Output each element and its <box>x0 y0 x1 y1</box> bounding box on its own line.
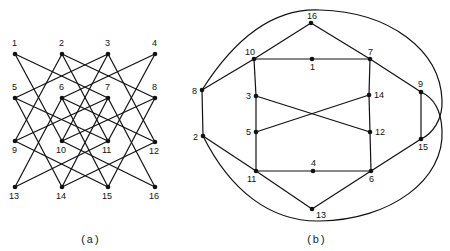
node-label-12: 12 <box>149 146 159 156</box>
node-label-10: 10 <box>56 145 66 155</box>
node-label-2: 2 <box>193 132 198 142</box>
node-label-2: 2 <box>59 38 64 48</box>
node-7 <box>106 96 111 101</box>
node-4 <box>153 52 158 57</box>
knight-graph-figure: 12345678910111213141516 1610178314951221… <box>0 0 450 251</box>
node-label-10: 10 <box>245 47 255 57</box>
edge-10-3 <box>254 59 256 96</box>
edge-10-8 <box>202 59 254 90</box>
node-16 <box>309 21 314 26</box>
node-8 <box>153 96 158 101</box>
node-3 <box>106 52 111 57</box>
node-label-16: 16 <box>307 11 317 21</box>
node-7 <box>368 57 373 62</box>
edge-12-6 <box>370 132 371 171</box>
node-label-4: 4 <box>152 38 157 48</box>
node-label-14: 14 <box>56 191 66 201</box>
edge-8-2 <box>202 90 203 136</box>
node-1 <box>310 57 315 62</box>
node-label-8: 8 <box>152 82 157 92</box>
node-4 <box>311 169 316 174</box>
node-9 <box>419 90 424 95</box>
node-label-6: 6 <box>369 174 374 184</box>
node-6 <box>60 96 65 101</box>
node-2 <box>60 52 65 57</box>
node-13 <box>13 185 18 190</box>
node-10 <box>60 139 65 144</box>
node-5 <box>13 96 18 101</box>
edge-6-15 <box>371 139 421 171</box>
edge-16-10 <box>254 23 311 59</box>
node-label-14: 14 <box>374 90 384 100</box>
node-10 <box>252 57 257 62</box>
caption-b: (b) <box>306 234 326 246</box>
node-12 <box>368 130 373 135</box>
node-label-11: 11 <box>247 174 256 184</box>
node-6 <box>369 169 374 174</box>
node-14 <box>60 185 65 190</box>
node-label-15: 15 <box>102 191 112 201</box>
edge-13-6 <box>312 171 371 209</box>
edge-7-14 <box>369 59 370 95</box>
node-label-3: 3 <box>246 91 251 101</box>
node-label-1: 1 <box>310 62 315 72</box>
node-14 <box>367 93 372 98</box>
edge-7-9 <box>370 59 421 92</box>
node-label-13: 13 <box>9 191 19 201</box>
node-3 <box>254 94 259 99</box>
node-label-6: 6 <box>59 82 64 92</box>
edge-2-11 <box>203 136 256 171</box>
node-label-16: 16 <box>149 191 159 201</box>
node-15 <box>419 137 424 142</box>
node-12 <box>153 140 158 145</box>
graph-panel-b: 16101783149512215114613 <box>192 10 442 221</box>
node-label-7: 7 <box>105 82 110 92</box>
caption-a: (a) <box>80 234 100 246</box>
node-16 <box>153 185 158 190</box>
node-label-5: 5 <box>246 127 251 137</box>
node-label-9: 9 <box>418 79 423 89</box>
node-label-5: 5 <box>12 82 17 92</box>
node-9 <box>13 139 18 144</box>
edge-11-13 <box>256 171 312 209</box>
node-label-12: 12 <box>375 127 385 137</box>
node-8 <box>200 88 205 93</box>
node-11 <box>106 139 111 144</box>
node-label-11: 11 <box>102 145 111 155</box>
node-label-7: 7 <box>368 47 373 57</box>
node-2 <box>201 134 206 139</box>
node-15 <box>106 185 111 190</box>
node-1 <box>13 52 18 57</box>
node-11 <box>254 169 259 174</box>
node-13 <box>310 207 315 212</box>
node-label-3: 3 <box>105 38 110 48</box>
node-label-1: 1 <box>12 38 17 48</box>
graph-panel-a: 12345678910111213141516 <box>9 38 159 201</box>
node-5 <box>254 130 259 135</box>
node-label-13: 13 <box>316 210 326 220</box>
node-label-8: 8 <box>192 86 197 96</box>
node-label-4: 4 <box>311 158 316 168</box>
edge-16-7 <box>311 23 370 59</box>
edge-14-12 <box>369 95 370 132</box>
node-label-15: 15 <box>418 142 428 152</box>
node-label-9: 9 <box>12 145 17 155</box>
